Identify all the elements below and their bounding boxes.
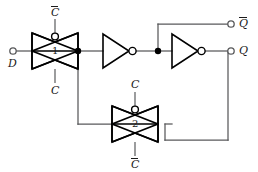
gate1-tri-lower-right — [55, 51, 78, 69]
overline-span: Q — [239, 17, 248, 29]
circuit-diagram-canvas: D C C 1 C C 2 Q Q — [0, 0, 258, 172]
label-gate1-bottom-control: C — [51, 85, 59, 96]
gate1-edge-b — [32, 60, 55, 69]
overline-span: C — [51, 6, 59, 18]
label-gate2-number: 2 — [132, 119, 138, 129]
gate2-tri-lower-right — [135, 124, 158, 142]
label-gate1-top-control: C — [51, 6, 59, 18]
terminal-qbar[interactable] — [228, 21, 234, 27]
junction-dot-node-b — [155, 48, 161, 54]
gate2-edge-d — [135, 133, 158, 142]
terminal-d[interactable] — [10, 48, 16, 54]
inverter-2-bubble — [198, 47, 205, 54]
inverter-2-triangle — [172, 34, 198, 68]
gate1-edge-d — [55, 60, 78, 69]
inverter-1-triangle — [103, 34, 129, 68]
inverter-2[interactable] — [172, 34, 205, 68]
label-gate2-top-control: C — [131, 79, 139, 90]
gate2-inversion-bubble — [132, 106, 139, 113]
junction-dot-node-a — [75, 48, 81, 54]
label-gate1-number: 1 — [52, 46, 58, 56]
label-qbar-output: Q — [239, 17, 248, 29]
label-q-output: Q — [239, 45, 248, 56]
inverter-1-bubble — [129, 47, 136, 54]
schematic-svg — [0, 0, 258, 172]
inverter-1[interactable] — [103, 34, 136, 68]
label-gate2-bottom-control: C — [131, 158, 139, 170]
overline-span: C — [131, 158, 139, 170]
terminal-q[interactable] — [228, 48, 234, 54]
gate2-edge-b — [112, 133, 135, 142]
gate1-inversion-bubble — [52, 33, 59, 40]
label-d-input: D — [8, 58, 17, 69]
